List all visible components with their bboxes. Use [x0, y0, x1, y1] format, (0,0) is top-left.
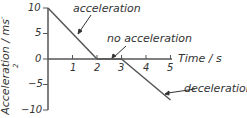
x-tick-label: 2: [94, 63, 100, 73]
x-tick-label: 4: [143, 63, 149, 73]
x-tick-label: 1: [70, 63, 76, 73]
y-tick-label: 10: [28, 3, 41, 13]
annotation-deceleration: deceleration: [184, 83, 247, 94]
y-axis-label: Acceleration / ms-2: [0, 16, 26, 116]
acceleration-line: [48, 8, 97, 59]
annotation-no-acceleration: no acceleration: [107, 33, 192, 44]
y-tick-label: −10: [21, 105, 42, 115]
x-axis-label: Time / s: [178, 53, 222, 64]
annotation-acceleration: acceleration: [73, 3, 141, 14]
y-tick-label: −5: [28, 79, 43, 89]
x-tick-label: 3: [118, 63, 124, 73]
y-tick-label: 5: [35, 28, 41, 38]
y-tick-label: 0: [35, 54, 41, 64]
x-tick-label: 5: [167, 63, 173, 73]
